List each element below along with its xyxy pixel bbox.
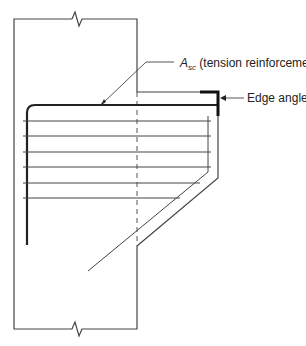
asc-label: Asc (tension reinforcement) [180,56,306,72]
asc-leader [102,62,174,104]
tension-reinforcement [27,105,218,245]
edge-angle-arrowhead [220,95,226,101]
corbel-diagram [0,0,306,346]
horizontal-ties [23,121,211,198]
edge-angle-label: Edge angle [247,91,306,105]
asc-subscript: sc [188,63,196,72]
column-outline [14,19,137,336]
asc-symbol: A [180,56,188,70]
column-top-right [72,12,218,246]
framing-bar [88,116,208,271]
asc-text: (tension reinforcement) [196,56,306,70]
